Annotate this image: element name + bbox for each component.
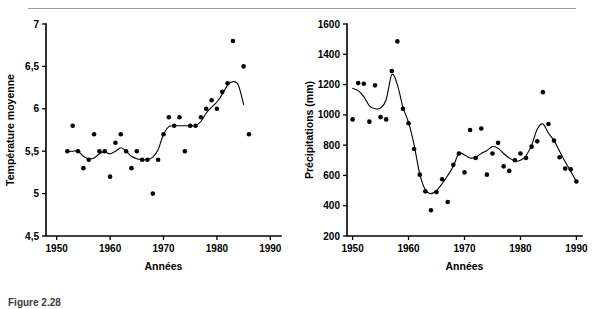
data-point [199,115,204,120]
data-point [183,149,188,154]
y-tick-label: 800 [323,140,340,151]
data-point [406,121,411,126]
y-tick-label: 400 [323,200,340,211]
data-point [188,123,193,128]
data-point [167,115,172,120]
data-point [108,174,113,179]
data-point [247,132,252,137]
x-tick-label: 1960 [99,243,122,254]
data-point [356,81,361,86]
data-point [350,117,355,122]
data-point [124,149,129,154]
data-point [367,119,372,124]
data-point [373,83,378,88]
data-point [231,39,236,44]
data-point [129,166,134,171]
data-point [473,156,478,161]
data-point [552,138,557,143]
data-point [445,200,450,205]
data-point [140,157,145,162]
y-tick-label: 1600 [318,19,341,30]
data-point [215,107,220,112]
data-point [177,115,182,120]
y-axis-title: Température moyenne [4,74,16,186]
data-point [457,151,462,156]
data-point [541,90,546,95]
data-point [479,126,484,131]
x-tick-label: 1960 [397,243,420,254]
data-point [462,170,467,175]
y-tick-label: 5 [33,188,39,199]
data-point [535,139,540,144]
data-point [145,157,150,162]
data-point [401,107,406,112]
temperature-chart: 4,555,566,5719501960197019801990AnnéesTe… [0,10,297,292]
data-point [65,149,70,154]
data-point [423,189,428,194]
figure-caption: Figure 2.28 [8,297,61,308]
data-point [209,98,214,103]
data-point [118,132,123,137]
data-point [490,151,495,156]
data-point [496,141,501,146]
data-points [65,39,251,196]
data-point [204,107,209,112]
y-tick-label: 1400 [318,49,341,60]
data-point [76,149,81,154]
y-tick-label: 6,5 [25,61,39,72]
data-point [518,151,523,156]
precipitations-chart: 2004006008001000120014001600195019601970… [297,10,594,292]
data-point [529,144,534,149]
data-point [417,172,422,177]
x-tick-label: 1990 [259,243,282,254]
axis-frame [46,24,281,236]
x-tick-label: 1970 [453,243,476,254]
y-tick-label: 200 [323,231,340,242]
data-point [97,149,102,154]
data-point [513,158,518,163]
y-tick-label: 1200 [318,79,341,90]
data-point [156,157,161,162]
data-point [161,132,166,137]
data-point [485,172,490,177]
chart-temperature-panel: 4,555,566,5719501960197019801990AnnéesTe… [0,10,297,292]
data-point [81,166,86,171]
data-point [384,117,389,122]
data-point [172,123,177,128]
data-point [569,167,574,172]
data-point [395,39,400,44]
chart-precipitations-panel: 2004006008001000120014001600195019601970… [297,10,594,292]
y-tick-label: 1000 [318,109,341,120]
data-point [507,169,512,174]
data-point [389,69,394,74]
x-axis-title: Années [145,260,183,272]
data-point [151,191,156,196]
data-point [193,123,198,128]
data-point [557,155,562,160]
data-point [102,149,107,154]
data-point [429,208,434,213]
y-tick-label: 6 [33,103,39,114]
y-axis-title: Précipitations (mm) [303,81,315,179]
x-axis-title: Années [446,260,484,272]
x-tick-label: 1970 [152,243,175,254]
data-point [225,81,230,86]
data-point [451,163,456,168]
data-point [361,82,366,87]
data-point [563,166,568,171]
data-point [434,190,439,195]
data-point [86,157,91,162]
x-tick-label: 1990 [565,243,588,254]
y-tick-label: 4,5 [25,231,39,242]
y-tick-label: 5,5 [25,146,39,157]
data-point [92,132,97,137]
x-tick-label: 1980 [509,243,532,254]
data-point [378,115,383,120]
figure-container: 4,555,566,5719501960197019801990AnnéesTe… [0,0,594,309]
x-tick-label: 1980 [206,243,229,254]
data-point [546,122,551,127]
y-tick-label: 600 [323,170,340,181]
x-tick-label: 1950 [46,243,69,254]
data-point [412,147,417,152]
data-point [70,123,75,128]
